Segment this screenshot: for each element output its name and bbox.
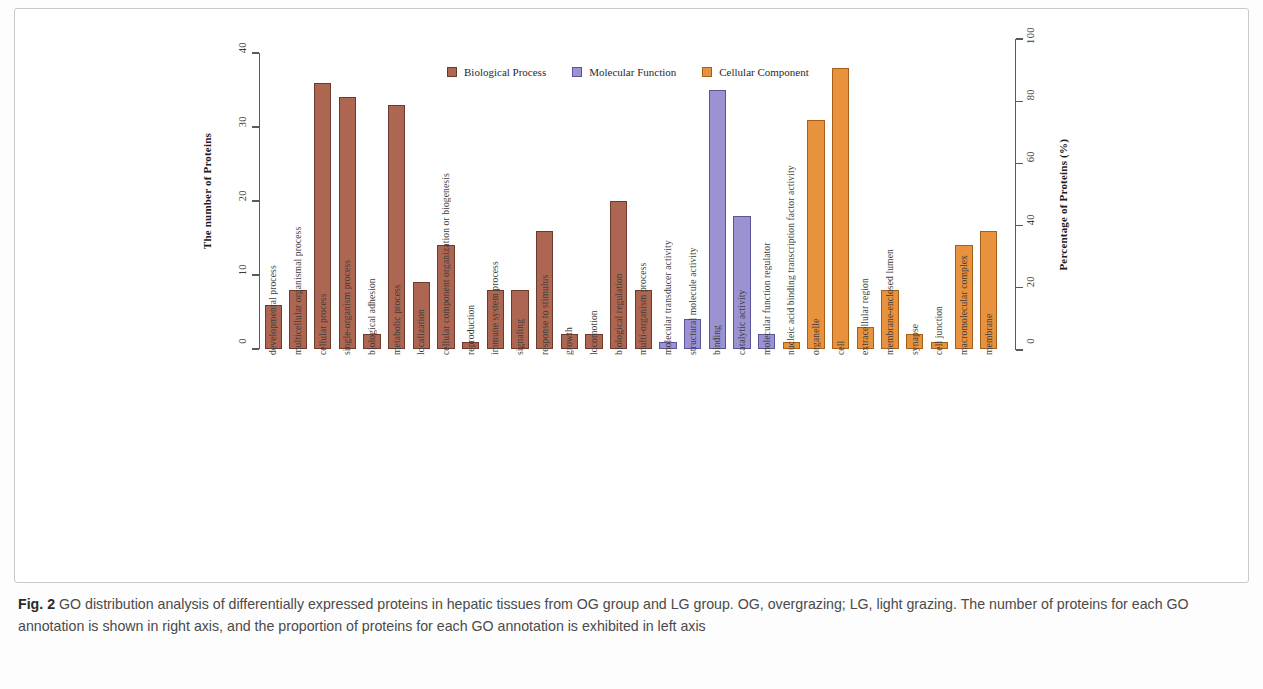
x-axis-label: extracellular region [859, 278, 870, 355]
x-axis-label: signaling [514, 319, 525, 355]
x-axis-label: cell [835, 341, 846, 355]
figure-caption: Fig. 2 GO distribution analysis of diffe… [18, 594, 1223, 637]
legend-swatch-icon [702, 67, 712, 77]
chart-legend: Biological ProcessMolecular FunctionCell… [447, 66, 809, 78]
x-axis-label: localization [415, 309, 426, 355]
legend-item: Biological Process [447, 66, 546, 78]
x-axis-label: metabolic process [391, 284, 402, 355]
x-axis-label: cellular process [317, 293, 328, 355]
y-tick-left [252, 274, 259, 275]
y-tick-right [1016, 163, 1023, 164]
y-tick-left-label: 0 [237, 338, 248, 344]
x-axis-label: structural molecule activity [687, 247, 698, 355]
legend-label: Biological Process [464, 66, 546, 78]
y-tick-right [1016, 287, 1023, 288]
x-axis-label: binding [711, 325, 722, 355]
x-axis-label: cellular component organization or bioge… [440, 173, 451, 355]
x-axis-label: single-organism process [341, 260, 352, 355]
x-axis-label: macromolecular complex [958, 255, 969, 355]
figure-panel: 010203040 020406080100 The number of Pro… [14, 8, 1249, 583]
x-axis-label: membrane [983, 314, 994, 355]
y-axis-left-title: The number of Proteins [201, 133, 213, 249]
x-axis-label: organelle [810, 319, 821, 355]
bar [832, 68, 849, 349]
legend-swatch-icon [572, 67, 582, 77]
bar [709, 90, 726, 349]
x-axis-label: locomotion [588, 310, 599, 355]
y-tick-left-label: 40 [237, 42, 248, 53]
y-axis-right-line [1015, 39, 1016, 350]
x-axis-label: synapse [909, 324, 920, 355]
y-tick-left [252, 52, 259, 53]
legend-label: Molecular Function [589, 66, 676, 78]
x-axis-label: biological regulation [613, 273, 624, 355]
x-axis-label: nucleic acid binding transcription facto… [785, 165, 796, 355]
y-tick-right-label: 20 [1025, 276, 1036, 287]
x-axis-label: cell junction [933, 306, 944, 355]
y-tick-right-label: 60 [1025, 151, 1036, 162]
y-tick-right-label: 40 [1025, 214, 1036, 225]
y-tick-right-label: 100 [1025, 27, 1036, 44]
y-tick-right [1016, 101, 1023, 102]
x-axis-label: developmental process [267, 265, 278, 355]
y-tick-left-label: 30 [237, 116, 248, 127]
y-tick-left-label: 10 [237, 264, 248, 275]
x-axis-label: growth [563, 327, 574, 355]
y-tick-left [252, 348, 259, 349]
y-tick-right-label: 0 [1025, 338, 1036, 344]
y-tick-right-label: 80 [1025, 89, 1036, 100]
y-tick-right [1016, 349, 1023, 350]
x-axis-label: immune system process [489, 261, 500, 355]
figure-caption-text: GO distribution analysis of differential… [18, 596, 1189, 634]
x-axis-label: biological adhesion [366, 278, 377, 355]
figure-page: 010203040 020406080100 The number of Pro… [0, 0, 1263, 689]
y-tick-right [1016, 38, 1023, 39]
y-tick-left [252, 200, 259, 201]
x-axis-label: multi-organism process [637, 263, 648, 355]
y-tick-left [252, 126, 259, 127]
x-axis-label: response to stimulus [539, 275, 550, 355]
figure-label: Fig. 2 [18, 596, 55, 612]
legend-item: Molecular Function [572, 66, 676, 78]
legend-label: Cellular Component [719, 66, 809, 78]
x-axis-label: molecular transducer activity [662, 240, 673, 355]
y-axis-right-title: Percentage of Proteins (%) [1057, 139, 1069, 271]
y-tick-left-label: 20 [237, 190, 248, 201]
bar [807, 120, 824, 349]
x-axis-label: reproduction [465, 305, 476, 355]
x-axis-label: molecular function regulator [761, 242, 772, 355]
y-tick-right [1016, 225, 1023, 226]
x-axis-label: multicellular organismal process [292, 227, 303, 355]
legend-swatch-icon [447, 67, 457, 77]
x-axis-label: membrane-enclosed lumen [884, 249, 895, 355]
legend-item: Cellular Component [702, 66, 809, 78]
x-axis-label: catalytic activity [736, 290, 747, 355]
